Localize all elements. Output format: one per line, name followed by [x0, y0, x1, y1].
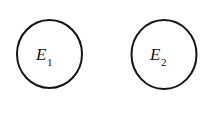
- label-e1: E1: [36, 46, 52, 66]
- set-diagram-figure: E1 E2: [0, 0, 217, 125]
- diagram-canvas: [0, 0, 217, 125]
- label-e2-base: E: [150, 45, 160, 64]
- label-e1-subscript: 1: [47, 56, 53, 68]
- label-e2-subscript: 2: [161, 56, 167, 68]
- label-e2: E2: [150, 46, 166, 66]
- label-e1-base: E: [36, 45, 46, 64]
- diagram-background: [0, 0, 217, 125]
